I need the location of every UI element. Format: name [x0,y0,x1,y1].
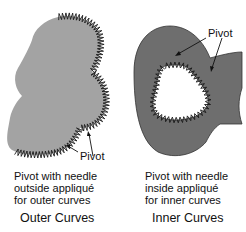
outer-caption-line: Pivot with needle [14,170,97,182]
outer-applique-shape [7,16,106,155]
inner-caption-line: Pivot with needle [145,170,228,182]
outer-caption-line: for outer curves [14,194,97,206]
inner-caption-line: for inner curves [145,194,228,206]
pivot-label-outer: Pivot [80,150,104,162]
inner-caption: Pivot with needle inside appliqué for in… [145,170,228,206]
outer-curves-heading: Outer Curves [20,211,94,225]
pivot-label-inner: Pivot [208,27,232,39]
inner-curves-heading: Inner Curves [152,211,224,225]
outer-caption: Pivot with needle outside appliqué for o… [14,170,97,206]
pivot-arrowhead-outer-2 [87,131,91,136]
inner-applique-shape [134,26,242,156]
inner-caption-line: inside appliqué [145,182,228,194]
outer-caption-line: outside appliqué [14,182,97,194]
